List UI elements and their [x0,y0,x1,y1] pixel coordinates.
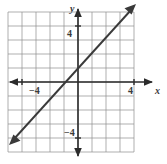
line-arrow-lower-left [9,134,21,145]
coordinate-plane-svg [0,0,167,164]
y-axis-tick-label-neg4: −4 [64,128,75,138]
y-axis-arrow-down [74,148,82,157]
y-axis-name-label: y [70,4,74,14]
x-axis-arrow-left [9,78,18,86]
y-axis-tick-label-pos4: 4 [67,29,72,39]
x-axis-arrow-right [144,78,153,86]
x-axis-tick-label-neg4: −4 [29,86,40,96]
y-axis-arrow-up [74,8,82,17]
graph-figure: −4 4 4 −4 y x [0,0,167,164]
x-axis-tick-label-pos4: 4 [128,86,133,96]
x-axis-name-label: x [155,86,160,96]
